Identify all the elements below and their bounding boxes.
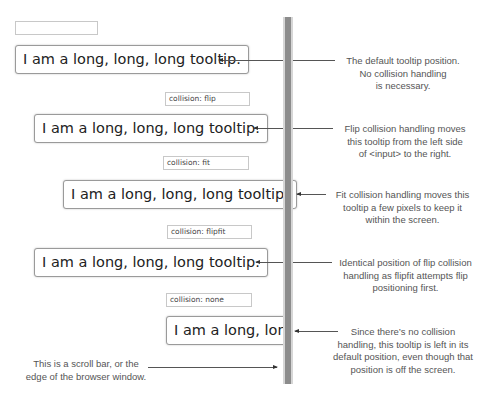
note-fit: Fit collision handling moves this toolti…: [325, 189, 480, 227]
none-input[interactable]: collision: none: [166, 293, 252, 307]
arrow-default: [219, 60, 335, 61]
none-tooltip: I am a long, long, long tooltip.: [166, 316, 283, 345]
scrollbar[interactable]: [283, 17, 293, 384]
arrow-flipfit: [256, 262, 332, 263]
arrow-flip: [254, 128, 333, 129]
arrow-fit: [297, 194, 326, 195]
note-default: The default tooltip position. No collisi…: [333, 55, 473, 93]
flip-tooltip: I am a long, long, long tooltip.: [34, 114, 268, 143]
note-flip: Flip collision handling moves this toolt…: [330, 123, 480, 161]
fit-input[interactable]: collision: fit: [163, 156, 249, 170]
note-none: Since there’s no collision handling, thi…: [328, 326, 478, 376]
default-input[interactable]: [15, 21, 98, 35]
flipfit-tooltip: I am a long, long, long tooltip.: [34, 248, 268, 277]
flipfit-input[interactable]: collision: flipfit: [167, 225, 252, 239]
fit-tooltip: I am a long, long, long tooltip.: [63, 180, 297, 209]
note-flipfit: Identical position of flip collision han…: [328, 257, 480, 295]
flip-input[interactable]: collision: flip: [165, 92, 250, 106]
arrow-scrollbar: [148, 367, 277, 368]
default-tooltip: I am a long, long, long tooltip.: [15, 45, 249, 74]
scrollbar-thumb[interactable]: [285, 17, 291, 384]
none-tooltip-clip: I am a long, long, long tooltip.: [160, 310, 283, 355]
note-scrollbar: This is a scroll bar, or the edge of the…: [25, 358, 147, 383]
